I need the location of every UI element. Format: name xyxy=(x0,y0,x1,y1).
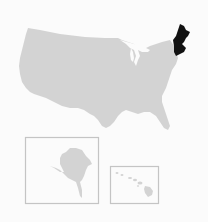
new-england-highlight xyxy=(173,24,190,56)
alaska-inset-frame xyxy=(26,138,99,204)
hawaii-islands xyxy=(116,172,154,197)
hawaii-inset-frame xyxy=(111,167,159,204)
hawaii-inset xyxy=(111,167,159,204)
map-canvas xyxy=(0,0,208,222)
us-locator-map xyxy=(0,0,208,222)
alaska-inset xyxy=(26,138,99,204)
contiguous-us-shape xyxy=(19,28,178,130)
alaska-shape xyxy=(50,148,92,198)
